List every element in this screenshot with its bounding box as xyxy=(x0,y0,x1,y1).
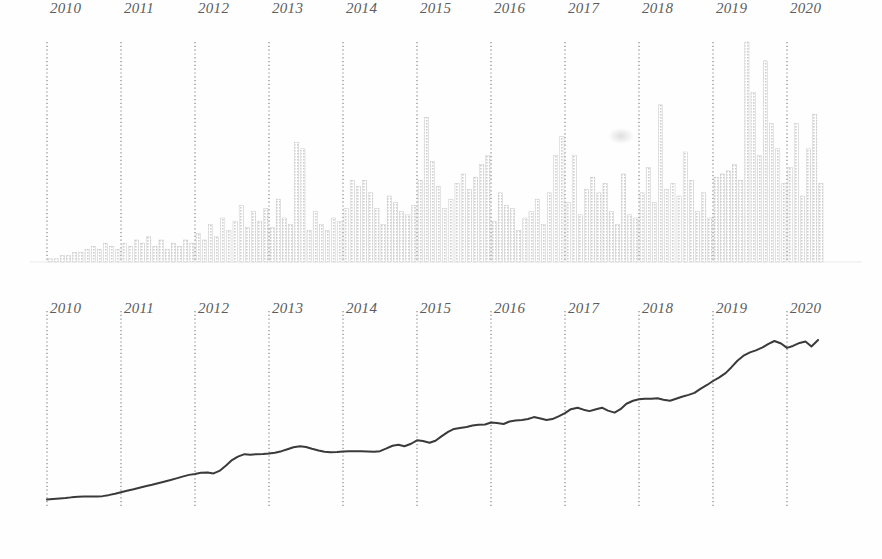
bar xyxy=(480,165,484,262)
bar xyxy=(646,168,650,262)
bar xyxy=(418,180,422,262)
bar xyxy=(554,155,558,262)
bar xyxy=(708,218,712,262)
bar xyxy=(819,183,823,262)
bar xyxy=(640,193,644,262)
bar xyxy=(356,187,360,262)
bar xyxy=(794,124,798,262)
bar xyxy=(227,231,231,262)
bar xyxy=(467,190,471,262)
bar xyxy=(652,202,656,262)
bar xyxy=(628,215,632,262)
bar xyxy=(584,190,588,262)
bar xyxy=(48,259,52,262)
bar xyxy=(258,221,262,262)
bar xyxy=(726,171,730,262)
bar xyxy=(97,249,101,262)
bar xyxy=(73,253,77,262)
bar xyxy=(393,202,397,262)
bar xyxy=(776,149,780,262)
x-tick-label-2020: 2020 xyxy=(790,0,821,17)
bar xyxy=(221,218,225,262)
bar xyxy=(128,246,132,262)
bar xyxy=(609,212,613,262)
x-tick-label-2019: 2019 xyxy=(716,0,747,17)
x-tick-label-2013: 2013 xyxy=(272,0,303,17)
bar xyxy=(159,240,163,262)
bar xyxy=(276,199,280,262)
bar xyxy=(523,218,527,262)
figure-two-panel-timeseries: 2010201120122013201420152016201720182019… xyxy=(0,0,882,559)
bar xyxy=(251,212,255,262)
bar xyxy=(757,155,761,262)
bar xyxy=(788,168,792,262)
bar xyxy=(782,183,786,262)
bar xyxy=(689,180,693,262)
x-tick-label-2010: 2010 xyxy=(50,0,81,17)
bar xyxy=(122,243,126,262)
x-tick-label-2016: 2016 xyxy=(494,0,525,17)
bar xyxy=(751,92,755,262)
bar xyxy=(79,253,83,262)
bar xyxy=(498,193,502,262)
bar xyxy=(591,177,595,262)
bar xyxy=(560,136,564,262)
bar xyxy=(282,218,286,262)
bar xyxy=(202,240,206,262)
bar xyxy=(147,237,151,262)
bar xyxy=(449,199,453,262)
x-tick-label-2012: 2012 xyxy=(198,300,229,317)
bar xyxy=(720,174,724,262)
line-series-cumulative xyxy=(47,340,818,500)
bar xyxy=(677,196,681,262)
bar xyxy=(66,256,70,262)
bar xyxy=(338,221,342,262)
x-tick-label-2012: 2012 xyxy=(198,0,229,17)
bar xyxy=(529,212,533,262)
bar xyxy=(492,221,496,262)
bar xyxy=(140,243,144,262)
bar xyxy=(634,218,638,262)
bar xyxy=(362,180,366,262)
bar xyxy=(424,117,428,262)
bar xyxy=(313,212,317,262)
bar xyxy=(325,231,329,262)
bar xyxy=(566,202,570,262)
bar xyxy=(214,237,218,262)
panel-cumulative-line: 2010201120122013201420152016201720182019… xyxy=(0,300,882,559)
x-tick-label-2011: 2011 xyxy=(124,300,154,317)
bar xyxy=(307,231,311,262)
bar xyxy=(103,243,107,262)
bar xyxy=(430,161,434,262)
bar-chart-plot-area xyxy=(0,0,882,300)
bar xyxy=(473,177,477,262)
bar xyxy=(695,212,699,262)
bar xyxy=(196,234,200,262)
bar xyxy=(597,193,601,262)
bar xyxy=(233,221,237,262)
bar xyxy=(134,240,138,262)
bar xyxy=(461,174,465,262)
bar xyxy=(190,243,194,262)
bar xyxy=(295,143,299,262)
bar xyxy=(665,190,669,262)
bar xyxy=(184,240,188,262)
bar xyxy=(486,155,490,262)
bar xyxy=(381,224,385,262)
bar xyxy=(504,205,508,262)
bar xyxy=(517,231,521,262)
bar xyxy=(208,224,212,262)
bar xyxy=(572,155,576,262)
bar xyxy=(239,205,243,262)
x-tick-label-2018: 2018 xyxy=(642,300,673,317)
bar xyxy=(603,183,607,262)
bar xyxy=(683,152,687,262)
bar xyxy=(412,205,416,262)
x-tick-label-2014: 2014 xyxy=(346,300,377,317)
x-tick-label-2014: 2014 xyxy=(346,0,377,17)
bar xyxy=(800,196,804,262)
x-tick-label-2010: 2010 xyxy=(50,300,81,317)
bar xyxy=(91,246,95,262)
bar xyxy=(535,199,539,262)
bar xyxy=(177,246,181,262)
